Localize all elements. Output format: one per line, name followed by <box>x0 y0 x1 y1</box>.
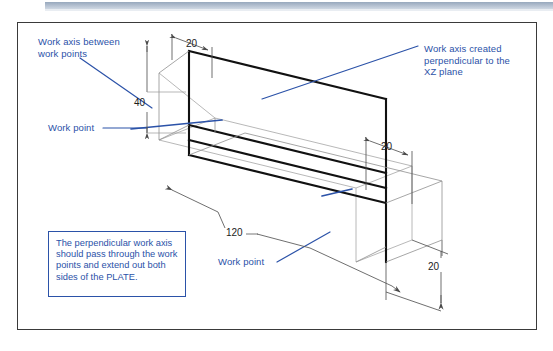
dimension-text-far-right-20: 20 <box>428 261 439 272</box>
dimension-far-right-20 <box>386 240 448 313</box>
note-box: The perpendicular work axis should pass … <box>48 231 186 297</box>
plate-outline <box>189 51 386 262</box>
drawing-page: Work axis between work points Work axis … <box>0 0 553 351</box>
label-work-axis-between: Work axis between work points <box>38 36 120 59</box>
dimension-text-mid-right-20: 20 <box>381 141 392 152</box>
dimension-bottom-120 <box>172 190 400 292</box>
dimension-text-left-40: 40 <box>134 97 145 108</box>
label-work-point-right: Work point <box>218 256 264 268</box>
dimension-text-bottom-120: 120 <box>226 227 243 238</box>
label-work-point-left: Work point <box>48 122 94 134</box>
work-axis-lines <box>131 120 352 196</box>
plate-construction-lines <box>159 51 442 262</box>
hidden-construction-lines <box>159 73 412 262</box>
dimension-text-top-20: 20 <box>186 38 197 49</box>
label-work-axis-perpendicular: Work axis created perpendicular to the X… <box>424 43 510 78</box>
